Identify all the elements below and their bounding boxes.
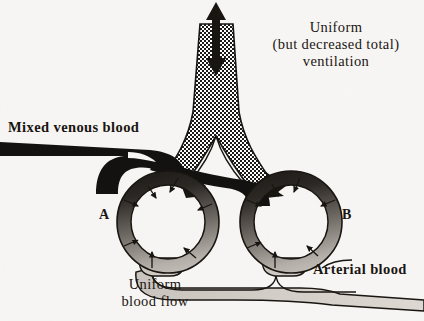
ventilation-label: Uniform (but decreased total) ventilatio… bbox=[252, 19, 420, 70]
uniform-blood-flow-label: Uniform blood flow bbox=[95, 276, 215, 310]
alveolus-b-label: B bbox=[342, 207, 352, 224]
mixed-venous-blood-label: Mixed venous blood bbox=[8, 119, 139, 136]
arterial-blood-label: Arterial blood bbox=[313, 261, 407, 278]
alveolus-a bbox=[100, 154, 240, 294]
alveolus-a-label: A bbox=[99, 207, 110, 224]
